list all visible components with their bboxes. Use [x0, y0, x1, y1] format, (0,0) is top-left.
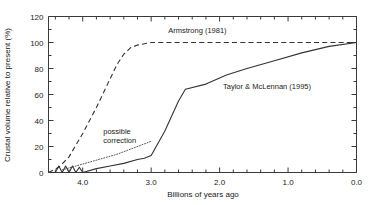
y-tick-label: 120	[30, 13, 44, 22]
taylor-mclennan-label: Taylor & McLennan (1995)	[223, 82, 311, 91]
y-axis-tick-labels: 020406080100120	[30, 13, 44, 178]
y-axis-ticks-right	[352, 17, 357, 173]
possible-correction-label-line1: possible	[103, 127, 131, 136]
series-possible-correction	[62, 141, 151, 170]
x-tick-label: 0.0	[351, 178, 363, 187]
axes: 4.03.02.01.00.0 020406080100120	[30, 13, 362, 187]
y-tick-label: 0	[39, 169, 44, 178]
chart-figure: 4.03.02.01.00.0 020406080100120 Armstron…	[0, 0, 375, 205]
x-axis-tick-labels: 4.03.02.01.00.0	[77, 178, 362, 187]
crustal-volume-growth-chart: 4.03.02.01.00.0 020406080100120 Armstron…	[0, 0, 375, 205]
x-axis-title: Billions of years ago	[167, 190, 239, 199]
armstrong-label: Armstrong (1981)	[168, 26, 227, 35]
possible-correction-label-line2: correction	[103, 136, 136, 145]
x-tick-label: 3.0	[146, 178, 158, 187]
y-tick-label: 20	[35, 143, 44, 152]
series-armstrong-1981	[49, 43, 357, 173]
data-series	[49, 43, 357, 173]
chart-annotations: Armstrong (1981)Taylor & McLennan (1995)…	[103, 26, 311, 144]
series-taylor-mclennan-1995	[49, 43, 357, 173]
x-tick-label: 2.0	[214, 178, 226, 187]
y-tick-label: 60	[35, 91, 44, 100]
y-axis-ticks	[49, 17, 54, 173]
y-axis-title: Crustal volume relative to present (%)	[3, 28, 12, 162]
y-tick-label: 40	[35, 117, 44, 126]
axis-lines	[49, 17, 357, 173]
x-axis-ticks-top	[49, 17, 357, 173]
y-tick-label: 80	[35, 65, 44, 74]
x-tick-label: 1.0	[282, 178, 294, 187]
x-tick-label: 4.0	[77, 178, 89, 187]
y-tick-label: 100	[30, 39, 44, 48]
